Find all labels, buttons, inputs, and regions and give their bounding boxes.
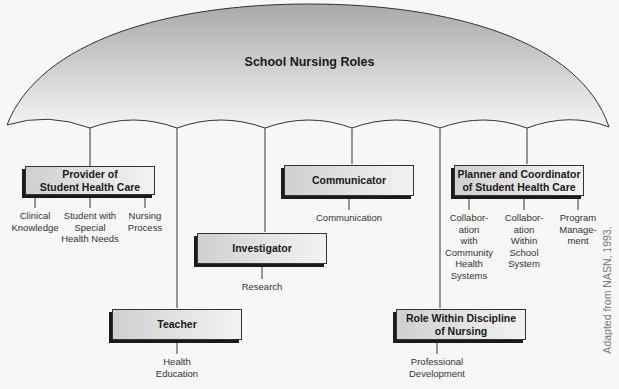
role-box-communicator: Communicator xyxy=(284,165,414,196)
sub-research: Research xyxy=(242,281,283,293)
sub-health-education: HealthEducation xyxy=(156,356,198,379)
role-box-planner: Planner and Coordinatorof Student Health… xyxy=(454,165,584,196)
sub-clinical-knowledge: ClinicalKnowledge xyxy=(11,210,58,233)
sub-program-management: ProgramManage-ment xyxy=(559,212,597,247)
source-credit: Adapted from NASN, 1993. xyxy=(601,226,613,353)
sub-professional-development: ProfessionalDevelopment xyxy=(409,356,465,379)
sub-communication: Communication xyxy=(316,212,382,224)
role-box-role-within-discipline: Role Within Disciplineof Nursing xyxy=(396,309,526,340)
sub-student-special-needs: Student withSpecialHealth Needs xyxy=(61,210,119,245)
diagram-title: School Nursing Roles xyxy=(0,55,619,69)
role-box-teacher: Teacher xyxy=(112,309,242,340)
role-box-investigator: Investigator xyxy=(197,233,327,264)
sub-nursing-process: NursingProcess xyxy=(128,210,162,233)
role-box-provider: Provider ofStudent Health Care xyxy=(25,166,155,195)
sub-collab-school: Collabor-ationWithinSchoolSystem xyxy=(505,212,544,270)
sub-collab-community: Collabor-ationwithCommunityHealthSystems xyxy=(445,212,493,281)
